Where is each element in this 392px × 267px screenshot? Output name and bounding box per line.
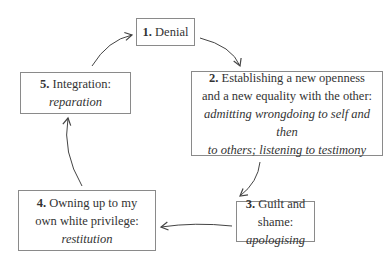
arrow-3-to-4 (161, 224, 232, 227)
node-subtitle: reparation (21, 93, 130, 111)
node-subtitle: admitting wrongdoing to self and then (192, 105, 382, 141)
arrow-2-to-3 (240, 162, 260, 196)
node-number: 5. (40, 77, 49, 91)
node-owning-up: 4. Owning up to my own white privilege: … (18, 190, 156, 251)
node-number: 1. (143, 25, 152, 39)
node-number: 4. (37, 196, 46, 210)
node-number: 2. (209, 71, 218, 85)
node-title: Integration: (53, 77, 111, 91)
node-establishing-openness: 2. Establishing a new openness and a new… (191, 71, 383, 156)
node-title-line2: and a new equality with the other: (192, 87, 382, 105)
node-title: Establishing a new openness (222, 71, 365, 85)
arrow-4-to-5 (67, 118, 82, 186)
node-title-line2: own white privilege: (19, 212, 155, 230)
arrow-5-to-1 (92, 35, 132, 66)
node-guilt-and-shame: 3. Guilt and shame: apologising (236, 201, 315, 242)
node-integration: 5. Integration: reparation (20, 72, 131, 114)
node-number: 3. (246, 197, 255, 211)
node-title: Guilt and shame: (258, 197, 305, 229)
node-subtitle-line2: to others; listening to testimony (192, 141, 382, 159)
arrow-1-to-2 (200, 38, 240, 66)
node-subtitle: restitution (19, 230, 155, 248)
node-subtitle: apologising (237, 231, 314, 249)
node-denial: 1. Denial (136, 18, 195, 46)
node-title: Owning up to my (49, 196, 137, 210)
node-title: Denial (155, 25, 188, 39)
